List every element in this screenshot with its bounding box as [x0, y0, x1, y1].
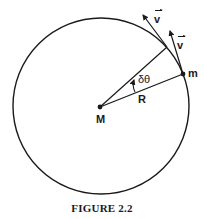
- figure-caption: FIGURE 2.2: [0, 202, 204, 214]
- central-mass-dot: [98, 105, 103, 110]
- vector-arrow-icon: [155, 10, 162, 11]
- orbiting-mass-dot: [181, 72, 186, 77]
- vector-arrow-icon: [178, 36, 185, 37]
- velocity-1-text: v: [154, 13, 160, 25]
- velocity-arrow-2: [170, 31, 183, 74]
- orbit-diagram: [0, 0, 204, 200]
- radius-line-displaced: [100, 47, 167, 107]
- label-R: R: [138, 94, 146, 105]
- velocity-2-text: v: [177, 39, 183, 51]
- label-velocity-2: v: [177, 40, 183, 51]
- angle-arc-arrow: [133, 80, 135, 92]
- label-delta-theta: δθ: [138, 74, 150, 85]
- label-M: M: [96, 114, 105, 125]
- label-velocity-1: v: [154, 14, 160, 25]
- label-m: m: [188, 68, 198, 79]
